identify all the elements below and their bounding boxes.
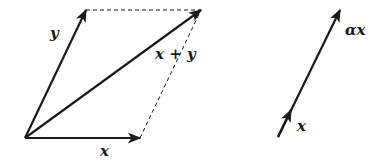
vector-diagram: y x + y x αx x <box>0 0 389 165</box>
label-x-scaled: x <box>297 119 306 134</box>
label-y: y <box>50 26 59 41</box>
dashed-right-edge <box>140 10 201 138</box>
label-alpha-x: αx <box>345 23 366 38</box>
vector-x-short-arrow <box>278 110 291 137</box>
label-x: x <box>100 144 109 159</box>
label-x-plus-y: x + y <box>155 47 196 62</box>
